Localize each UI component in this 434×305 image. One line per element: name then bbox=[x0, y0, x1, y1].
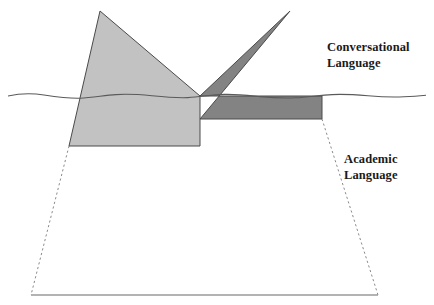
label-conversational-language: Conversational Language bbox=[327, 39, 410, 71]
iceberg-language-diagram: Conversational Language Academic Languag… bbox=[0, 0, 434, 305]
label-academic-line2: Language bbox=[344, 167, 398, 183]
light-gray-peak-shape bbox=[69, 11, 200, 146]
label-academic-line1: Academic bbox=[344, 151, 398, 167]
dashed-left-edge bbox=[31, 146, 69, 295]
dashed-right-edge bbox=[322, 119, 378, 295]
label-conversational-line2: Language bbox=[327, 55, 410, 71]
label-academic-language: Academic Language bbox=[344, 151, 398, 183]
label-conversational-line1: Conversational bbox=[327, 39, 410, 55]
dark-gray-peak-shape bbox=[200, 11, 322, 119]
